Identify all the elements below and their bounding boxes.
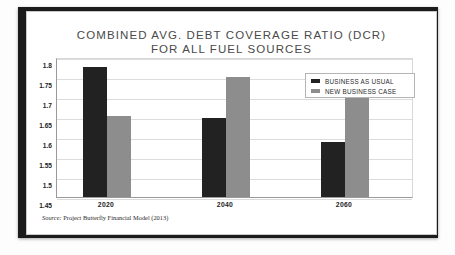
y-axis-tick: 1.55: [24, 154, 52, 172]
y-axis-tick-label: 1.55: [39, 162, 52, 169]
legend-item-new-business-case: NEW BUSINESS CASE: [311, 86, 414, 96]
slide-image: COMBINED AVG. DEBT COVERAGE RATIO (DCR) …: [0, 0, 455, 255]
legend-label-new-business-case: NEW BUSINESS CASE: [325, 88, 396, 95]
legend-item-business-as-usual: BUSINESS AS USUAL: [311, 76, 414, 86]
bar-2040-business-as-usual: [202, 118, 226, 197]
chart-title-line-2: FOR ALL FUEL SOURCES: [27, 43, 436, 55]
gridline: [57, 199, 412, 200]
source-note: Source: Project Butterfly Financial Mode…: [42, 214, 168, 221]
y-axis-tick-label: 1.65: [39, 122, 52, 129]
y-axis-tick-label: 1.5: [43, 182, 52, 189]
y-axis-tick: 1.7: [24, 94, 52, 112]
y-axis-tick-label: 1.45: [39, 202, 52, 209]
y-axis-tick-label: 1.7: [43, 102, 52, 109]
bar-2060-business-as-usual: [321, 142, 345, 197]
y-axis-tick: 1.5: [24, 174, 52, 192]
legend-swatch-icon-business-as-usual: [311, 79, 320, 83]
bar-2040-new-business-case: [226, 77, 250, 197]
y-axis-tick: 1.6: [24, 134, 52, 152]
bar-2020-business-as-usual: [83, 67, 107, 197]
chart-title-line-1: COMBINED AVG. DEBT COVERAGE RATIO (DCR): [27, 29, 436, 41]
x-axis-tick-2020: 2020: [76, 201, 136, 208]
legend-swatch-icon-new-business-case: [311, 89, 320, 93]
y-axis-tick-label: 1.6: [43, 142, 52, 149]
source-text: Project Butterfly Financial Model (2013): [63, 214, 168, 221]
y-axis-tick: 1.75: [24, 74, 52, 92]
gridline: [57, 59, 412, 60]
source-prefix: Source:: [42, 214, 62, 221]
x-axis-tick-2040: 2040: [195, 201, 255, 208]
bar-2060-new-business-case: [345, 90, 369, 197]
x-axis-tick-2060: 2060: [314, 201, 374, 208]
y-axis-tick: 1.65: [24, 114, 52, 132]
y-axis-tick-label: 1.8: [43, 62, 52, 69]
y-axis-tick-label: 1.75: [39, 82, 52, 89]
bar-2020-new-business-case: [107, 116, 131, 197]
y-axis-tick: 1.8: [24, 54, 52, 72]
chart-legend: BUSINESS AS USUAL NEW BUSINESS CASE: [305, 73, 415, 98]
legend-label-business-as-usual: BUSINESS AS USUAL: [325, 78, 394, 85]
y-axis-tick: 1.45: [24, 194, 52, 212]
